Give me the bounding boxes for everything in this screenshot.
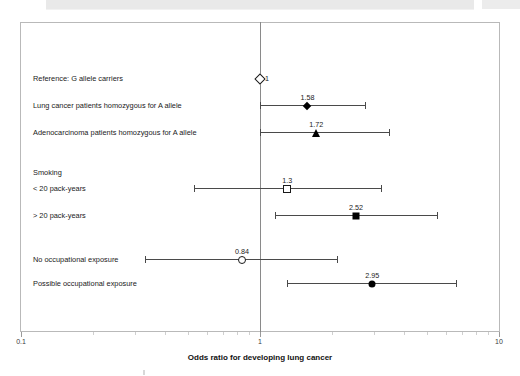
row-label: Reference: G allele carriers	[33, 74, 123, 83]
ci-cap-lower	[194, 185, 195, 192]
x-axis-minor-tick	[476, 332, 477, 335]
ci-cap-upper	[365, 102, 366, 109]
x-axis-tick-label: 0.1	[16, 338, 26, 346]
x-axis-minor-tick	[446, 332, 447, 335]
x-axis-tick-label: 10	[495, 338, 503, 346]
x-axis-minor-tick	[188, 332, 189, 335]
point-estimate-value-label: 2.95	[365, 272, 379, 280]
point-estimate-value-label: 1.58	[300, 94, 314, 102]
point-estimate-value-label: 1.3	[282, 177, 292, 185]
cut-off-header-strip-right	[482, 0, 520, 9]
x-axis-minor-tick	[237, 332, 238, 335]
row-label: < 20 pack-years	[33, 184, 86, 193]
x-axis-minor-tick	[374, 332, 375, 335]
ci-cap-lower	[260, 129, 261, 136]
ci-cap-upper	[337, 256, 338, 263]
ci-cap-lower	[287, 280, 288, 287]
ci-cap-upper	[389, 129, 390, 136]
point-estimate-marker	[352, 213, 359, 220]
x-axis-tick-label: 1	[258, 338, 262, 346]
ci-cap-upper	[456, 280, 457, 287]
page-artifact	[143, 370, 145, 375]
point-estimate-marker	[369, 281, 376, 288]
x-axis-major-tick	[499, 332, 500, 337]
x-axis-minor-tick	[404, 332, 405, 335]
forest-plot-page: Reference: G allele carriers1Lung cancer…	[0, 0, 520, 376]
x-axis-minor-tick	[249, 332, 250, 335]
x-axis-minor-tick	[488, 332, 489, 335]
x-axis-major-tick	[260, 332, 261, 337]
ci-cap-lower	[260, 102, 261, 109]
point-estimate-value-label: 0.84	[235, 248, 249, 256]
row-label: Adenocarcinoma patients homozygous for A…	[33, 128, 197, 137]
point-estimate-value-label: 1	[265, 75, 269, 83]
point-estimate-value-label: 2.52	[349, 204, 363, 212]
ci-cap-lower	[145, 256, 146, 263]
point-estimate-marker	[238, 256, 246, 264]
row-label: > 20 pack-years	[33, 211, 86, 220]
row-label: Smoking	[33, 168, 62, 177]
x-axis-minor-tick	[165, 332, 166, 335]
x-axis-minor-tick	[207, 332, 208, 335]
x-axis-minor-tick	[223, 332, 224, 335]
row-label: Lung cancer patients homozygous for A al…	[33, 101, 182, 110]
x-axis-minor-tick	[462, 332, 463, 335]
x-axis-minor-tick	[332, 332, 333, 335]
ci-cap-upper	[381, 185, 382, 192]
cut-off-header-strip	[46, 0, 474, 10]
x-axis-title: Odds ratio for developing lung cancer	[0, 353, 520, 362]
point-estimate-value-label: 1.72	[309, 121, 323, 129]
x-axis-minor-tick	[93, 332, 94, 335]
ci-cap-lower	[275, 212, 276, 219]
x-axis-minor-tick	[427, 332, 428, 335]
row-label: No occupational exposure	[33, 255, 118, 264]
confidence-interval-line	[260, 105, 365, 106]
confidence-interval-line	[260, 132, 389, 133]
x-axis-minor-tick	[135, 332, 136, 335]
ci-cap-upper	[437, 212, 438, 219]
reference-line	[260, 22, 261, 333]
row-label: Possible occupational exposure	[33, 279, 137, 288]
point-estimate-marker	[283, 185, 291, 193]
point-estimate-marker	[312, 129, 320, 137]
x-axis-major-tick	[21, 332, 22, 337]
